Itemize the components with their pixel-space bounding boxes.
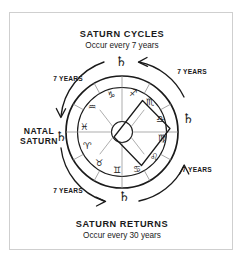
- subheading-saturn-cycles: Occur every 7 years: [85, 41, 158, 50]
- natal-saturn-label-line2: SATURN: [20, 136, 58, 146]
- zodiac-glyph-leo: ♌: [150, 151, 158, 162]
- zodiac-glyph-capricorn: ♑: [107, 89, 115, 100]
- saturn-marker-bottom: ♄: [118, 188, 130, 204]
- zodiac-glyph-taurus: ♉: [95, 157, 103, 168]
- zodiac-glyph-libra: ♎: [156, 113, 164, 124]
- natal-saturn-label-line1: NATAL: [24, 126, 54, 136]
- zodiac-glyph-cancer: ♋: [133, 163, 141, 174]
- arrow-head-bottom: [96, 197, 106, 206]
- zodiac-glyph-scorpio: ♏: [146, 96, 154, 107]
- saturn-marker-top: ♄: [115, 53, 127, 69]
- heading-saturn-returns: SATURN RETURNS: [76, 219, 168, 229]
- zodiac-glyph-sagittarius: ♐: [129, 87, 137, 98]
- zodiac-glyph-aries: ♈: [83, 140, 92, 151]
- heading-saturn-cycles: SATURN CYCLES: [80, 29, 165, 39]
- interval-label-top-right: 7 YEARS: [177, 68, 207, 75]
- zodiac-glyph-gemini: ♊: [113, 164, 121, 175]
- arrow-head-top: [139, 58, 148, 67]
- wheel-center-circle: [112, 122, 133, 143]
- zodiac-glyph-virgo: ♍: [158, 132, 166, 143]
- zodiac-glyph-aquarius: ♒: [88, 101, 96, 112]
- saturn-cycles-diagram: SATURN CYCLES Occur every 7 years SATURN…: [0, 0, 244, 264]
- zodiac-glyph-pisces: ♓: [80, 121, 88, 132]
- saturn-marker-right: ♄: [182, 110, 194, 126]
- subheading-saturn-returns: Occur every 30 years: [83, 231, 161, 240]
- interval-label-bottom-left: 7 YEARS: [53, 187, 83, 194]
